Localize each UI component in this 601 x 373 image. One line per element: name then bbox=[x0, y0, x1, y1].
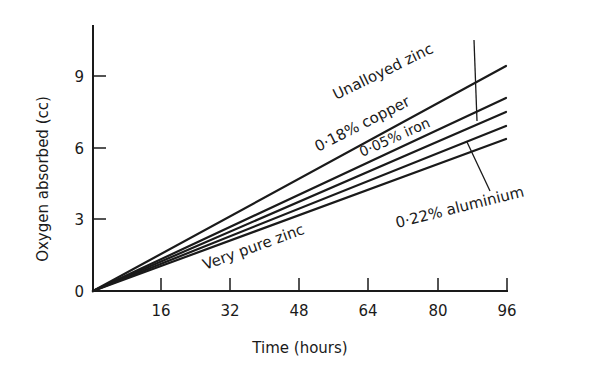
y-tick-label: 9 bbox=[74, 68, 84, 86]
y-tick-label: 3 bbox=[74, 211, 84, 229]
x-ticks bbox=[161, 278, 507, 291]
x-tick-labels: 16 32 48 64 80 96 bbox=[151, 302, 516, 320]
series-line-unalloyed-zinc bbox=[93, 66, 506, 291]
series-labels: Unalloyed zinc 0·18% copper 0·05% iron 0… bbox=[200, 39, 526, 273]
pointer-unalloyed-zinc bbox=[474, 40, 477, 121]
label-very-pure-zinc: Very pure zinc bbox=[200, 220, 307, 273]
y-ticks bbox=[93, 76, 106, 219]
y-tick-label: 0 bbox=[74, 283, 84, 301]
y-tick-labels: 9 6 3 0 bbox=[74, 68, 84, 301]
y-axis-title: Oxygen absorbed (cc) bbox=[34, 96, 52, 262]
label-aluminium: 0·22% aluminium bbox=[394, 183, 526, 232]
x-axis-title: Time (hours) bbox=[251, 339, 347, 357]
x-tick-label: 48 bbox=[289, 302, 308, 320]
x-tick-label: 64 bbox=[358, 302, 377, 320]
x-tick-label: 32 bbox=[220, 302, 239, 320]
label-unalloyed-zinc: Unalloyed zinc bbox=[330, 39, 436, 103]
x-tick-label: 16 bbox=[151, 302, 170, 320]
y-tick-label: 6 bbox=[74, 140, 84, 158]
series-line-copper bbox=[93, 98, 506, 291]
axes bbox=[92, 25, 508, 292]
oxygen-absorption-chart: 9 6 3 0 16 32 48 64 80 96 Time (hours) O… bbox=[0, 0, 601, 373]
x-tick-label: 80 bbox=[428, 302, 447, 320]
series-lines bbox=[93, 66, 506, 291]
x-tick-label: 96 bbox=[497, 302, 516, 320]
